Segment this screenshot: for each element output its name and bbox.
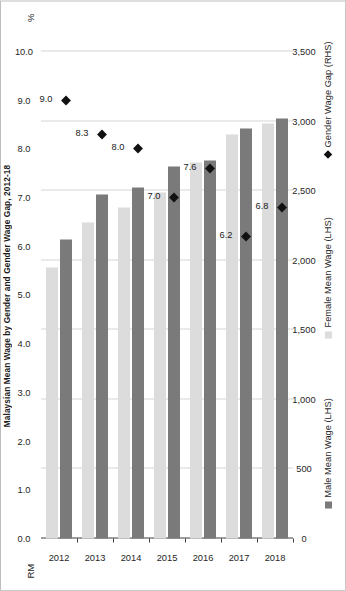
- category-label-2016: 2016: [188, 552, 218, 562]
- value-axis: [41, 537, 293, 538]
- legend-item[interactable]: Male Mean Wage (LHS): [323, 398, 333, 508]
- gridline: [41, 50, 293, 51]
- right-axis-tick-7.0: 7.0: [18, 192, 31, 202]
- data-label-gap-2013: 8.3: [75, 127, 88, 137]
- chart-figure: Malaysian Mean Wage by Gender and Gender…: [0, 0, 346, 591]
- category-tick: [221, 538, 222, 542]
- data-label-gap-2018: 6.8: [255, 200, 268, 210]
- legend-item[interactable]: Female Mean Wage (LHS): [323, 217, 333, 338]
- data-label-gap-2012: 9.0: [39, 93, 52, 103]
- right-axis-tick-6.0: 6.0: [18, 241, 31, 251]
- left-axis-tick-0: 0: [301, 533, 306, 543]
- bar-male-2013: [96, 194, 108, 538]
- bar-male-2018: [276, 118, 288, 538]
- left-axis-unit-label: RM: [25, 563, 36, 578]
- left-axis-tick-3,000: 3,000: [292, 116, 315, 126]
- screenshot-canvas: Malaysian Mean Wage by Gender and Gender…: [0, 0, 346, 591]
- bar-male-2016: [204, 160, 216, 538]
- bar-male-2015: [168, 167, 180, 539]
- category-label-2012: 2012: [44, 552, 74, 562]
- right-axis-unit-label: %: [25, 13, 36, 21]
- bar-male-2014: [132, 187, 144, 538]
- left-axis-tick-500: 500: [296, 463, 312, 473]
- square-marker-icon: [325, 501, 332, 508]
- bar-male-2017: [240, 128, 252, 538]
- data-label-gap-2014: 8.0: [111, 141, 124, 151]
- bar-female-2012: [46, 267, 58, 538]
- data-point-gap-2012: [61, 95, 71, 105]
- category-tick: [293, 538, 294, 542]
- category-tick: [185, 538, 186, 542]
- category-label-2013: 2013: [80, 552, 110, 562]
- gridline: [41, 189, 293, 190]
- left-axis-tick-1,000: 1,000: [292, 394, 315, 404]
- gridline: [41, 467, 293, 468]
- category-tick: [149, 538, 150, 542]
- data-point-gap-2013: [97, 129, 107, 139]
- category-label-2017: 2017: [224, 552, 254, 562]
- data-point-gap-2014: [133, 143, 143, 153]
- chart-legend: Male Mean Wage (LHS)Female Mean Wage (LH…: [318, 11, 338, 538]
- legend-label: Male Mean Wage (LHS): [323, 398, 333, 497]
- bar-female-2018: [262, 123, 274, 538]
- right-axis-tick-8.0: 8.0: [18, 143, 31, 153]
- gridline: [41, 259, 293, 260]
- legend-item[interactable]: Gender Wage Gap (RHS): [323, 41, 333, 157]
- left-axis-tick-2,500: 2,500: [292, 185, 315, 195]
- left-axis-tick-1,500: 1,500: [292, 324, 315, 334]
- right-axis-tick-10.0: 10.0: [15, 46, 33, 56]
- right-axis-tick-0.0: 0.0: [18, 533, 31, 543]
- data-label-gap-2016: 7.6: [183, 161, 196, 171]
- right-axis-tick-9.0: 9.0: [18, 95, 31, 105]
- right-axis-tick-4.0: 4.0: [18, 338, 31, 348]
- data-label-gap-2017: 6.2: [219, 229, 232, 239]
- bar-female-2013: [82, 222, 94, 538]
- rotated-figure-wrapper: Malaysian Mean Wage by Gender and Gender…: [0, 0, 346, 591]
- category-label-2014: 2014: [116, 552, 146, 562]
- bar-male-2012: [60, 239, 72, 538]
- right-axis-tick-2.0: 2.0: [18, 436, 31, 446]
- gridline: [41, 120, 293, 121]
- right-axis-tick-3.0: 3.0: [18, 387, 31, 397]
- legend-label: Gender Wage Gap (RHS): [323, 41, 333, 147]
- bar-female-2014: [118, 207, 130, 538]
- category-label-2018: 2018: [260, 552, 290, 562]
- gridline: [41, 328, 293, 329]
- bar-female-2016: [190, 162, 202, 538]
- data-label-gap-2015: 7.0: [147, 190, 160, 200]
- category-tick: [113, 538, 114, 542]
- plot-area: 9.020128.320138.020147.020157.620166.220…: [41, 51, 293, 538]
- square-marker-icon: [325, 331, 332, 338]
- bar-female-2017: [226, 135, 238, 539]
- left-axis-tick-3,500: 3,500: [292, 46, 315, 56]
- diamond-marker-icon: [324, 150, 332, 158]
- category-label-2015: 2015: [152, 552, 182, 562]
- category-tick: [257, 538, 258, 542]
- bar-female-2015: [154, 192, 166, 538]
- legend-label: Female Mean Wage (LHS): [323, 217, 333, 327]
- right-axis-tick-1.0: 1.0: [18, 484, 31, 494]
- right-axis-tick-5.0: 5.0: [18, 290, 31, 300]
- category-tick: [77, 538, 78, 542]
- gridline: [41, 398, 293, 399]
- page-title: Malaysian Mean Wage by Gender and Gender…: [2, 1, 12, 590]
- left-axis-tick-2,000: 2,000: [292, 255, 315, 265]
